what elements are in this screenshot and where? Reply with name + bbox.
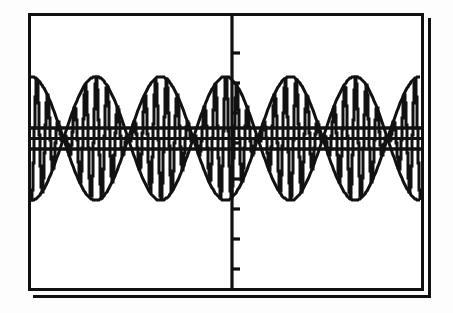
graph-plot-area[interactable] (31, 16, 421, 288)
frame-shadow-bottom (33, 295, 431, 298)
waveform-group (31, 77, 421, 200)
screen-alt-text: Graphing calculator screen showing a bea… (0, 0, 1, 1)
graph-canvas (31, 16, 421, 288)
screenshot-root: Graphing calculator screen showing a bea… (0, 0, 453, 313)
calculator-screen-frame (28, 13, 424, 291)
frame-shadow-right (428, 18, 431, 298)
